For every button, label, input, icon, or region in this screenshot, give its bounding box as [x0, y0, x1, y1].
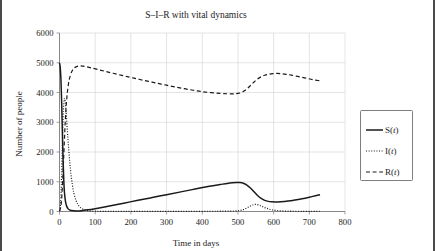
x-tick-label: 100 — [89, 217, 102, 227]
x-tick-label: 200 — [124, 217, 137, 227]
x-tick-label: 700 — [303, 217, 316, 227]
sir-line-chart: S–I–R with vital dynamics Number of peop… — [0, 0, 435, 251]
y-axis-title: Number of people — [14, 91, 24, 156]
x-tick-label: 0 — [57, 217, 61, 227]
x-tick-label: 400 — [196, 217, 209, 227]
legend-label-rt: R(t) — [385, 167, 400, 177]
series-line-it — [60, 98, 321, 211]
x-axis-title: Time in days — [173, 238, 220, 248]
figure-container: S–I–R with vital dynamics Number of peop… — [0, 0, 435, 251]
x-tick-label: 800 — [339, 217, 352, 227]
legend-label-it: I(t) — [385, 146, 397, 156]
y-tick-label: 1000 — [36, 177, 53, 187]
x-tick-label: 300 — [160, 217, 173, 227]
y-tick-label: 4000 — [36, 88, 53, 98]
data-series-layer — [60, 63, 321, 212]
y-tick-label: 2000 — [36, 147, 53, 157]
x-tick-label: 600 — [267, 217, 280, 227]
chart-legend: S(t)I(t)R(t) — [361, 111, 413, 181]
x-axis-tick-labels: 0100200300400500600700800 — [57, 217, 351, 227]
legend-label-st: S(t) — [385, 125, 399, 135]
y-tick-label: 0 — [49, 207, 53, 217]
y-axis-tick-labels: 0100020003000400050006000 — [36, 28, 53, 217]
chart-title: S–I–R with vital dynamics — [145, 10, 247, 20]
y-tick-label: 5000 — [36, 58, 53, 68]
x-tick-label: 500 — [231, 217, 244, 227]
y-tick-label: 3000 — [36, 117, 53, 127]
y-tick-label: 6000 — [36, 28, 53, 38]
grid-lines — [60, 33, 346, 212]
series-line-st — [60, 63, 321, 211]
